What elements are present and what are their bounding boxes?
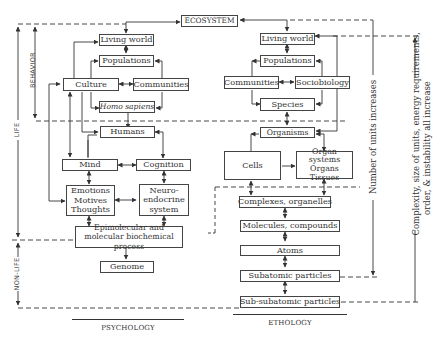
hierarchy-diagram: BEHAVIOR LIFE NON-LIFE ECOSYSTEM Living … (0, 0, 435, 339)
ethology-rule (233, 314, 347, 315)
emotions-motives-thoughts-box: Emotions Motives Thoughts (66, 185, 115, 216)
epimolecular-box: Epimolecular and molecular biochemical p… (75, 226, 183, 248)
psych-populations-box: Populations (99, 55, 154, 67)
etho-communities-box: Communities (224, 76, 279, 89)
genome-box: Genome (100, 261, 154, 273)
non-life-label: NON-LIFE (13, 257, 21, 291)
partial-caption-text (0, 0, 3, 10)
thoughts-label: Thoughts (71, 205, 110, 215)
cognition-box: Cognition (136, 159, 191, 171)
psychology-rule (72, 319, 184, 320)
humans-box: Humans (100, 126, 155, 138)
complexity-label-line2: order, & instability all increase (422, 61, 432, 236)
atoms-box: Atoms (240, 245, 340, 256)
neuro-label-3: system (150, 205, 179, 215)
organ-systems-box: Organ systems Organs Tissues (296, 151, 353, 179)
species-box: Species (260, 98, 315, 111)
etho-populations-box: Populations (260, 55, 315, 67)
sociobiology-box: Sociobiology (295, 76, 350, 89)
complexity-label-line1: Complexity, size of units, energy requir… (411, 61, 421, 236)
etho-living-world-box: Living world (260, 33, 315, 45)
homo-sapiens-box: Homo sapiens (99, 101, 155, 113)
psych-living-world-box: Living world (99, 34, 154, 46)
behavior-label: BEHAVIOR (29, 58, 37, 88)
ecosystem-box: ECOSYSTEM (181, 15, 238, 27)
neuroendocrine-box: Neuro- endocrine system (139, 184, 189, 216)
psych-communities-box: Communities (133, 78, 189, 91)
psychology-heading: PSYCHOLOGY (72, 324, 184, 332)
cells-box: Cells (224, 151, 281, 180)
molecules-compounds-box: Molecules, compounds (240, 220, 340, 232)
epi-label-2: molecular biochemical process (76, 232, 182, 251)
organisms-box: Organisms (260, 127, 315, 138)
ethology-heading: ETHOLOGY (233, 319, 347, 327)
subatomic-particles-box: Subatomic particles (240, 270, 340, 282)
sub-subatomic-particles-box: Sub-subatomic particles (240, 296, 340, 308)
epi-label-1: Epimolecular and (94, 223, 164, 233)
complexes-organelles-box: Complexes, organelles (239, 196, 331, 208)
organ-systems-label: Organ systems (297, 148, 352, 165)
tissues-label: Tissues (310, 174, 339, 183)
mind-box: Mind (62, 159, 118, 171)
culture-box: Culture (63, 78, 119, 91)
units-increase-label: Number of units increases (368, 72, 378, 202)
life-label: LIFE (13, 120, 21, 140)
